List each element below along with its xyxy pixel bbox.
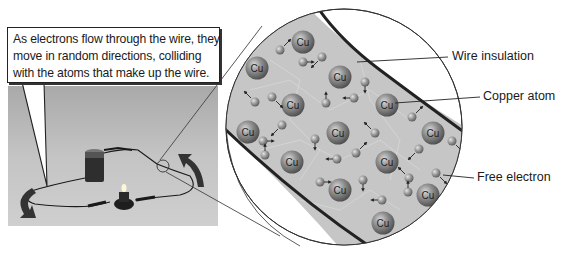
label-wire-insulation: Wire insulation bbox=[452, 49, 534, 63]
callout-line-1: As electrons flow through the wire, they bbox=[13, 31, 214, 48]
label-free-electron: Free electron bbox=[477, 170, 551, 184]
label-copper-atom: Copper atom bbox=[483, 89, 555, 103]
diagram-stage: CuCuCuCuCuCuCuCuCuCuCuCuCu As electrons … bbox=[0, 0, 580, 260]
callout-line-3: with the atoms that make up the wire. bbox=[13, 65, 214, 82]
explanation-callout: As electrons flow through the wire, they… bbox=[7, 27, 220, 83]
callout-line-2: move in random directions, colliding bbox=[13, 48, 214, 65]
